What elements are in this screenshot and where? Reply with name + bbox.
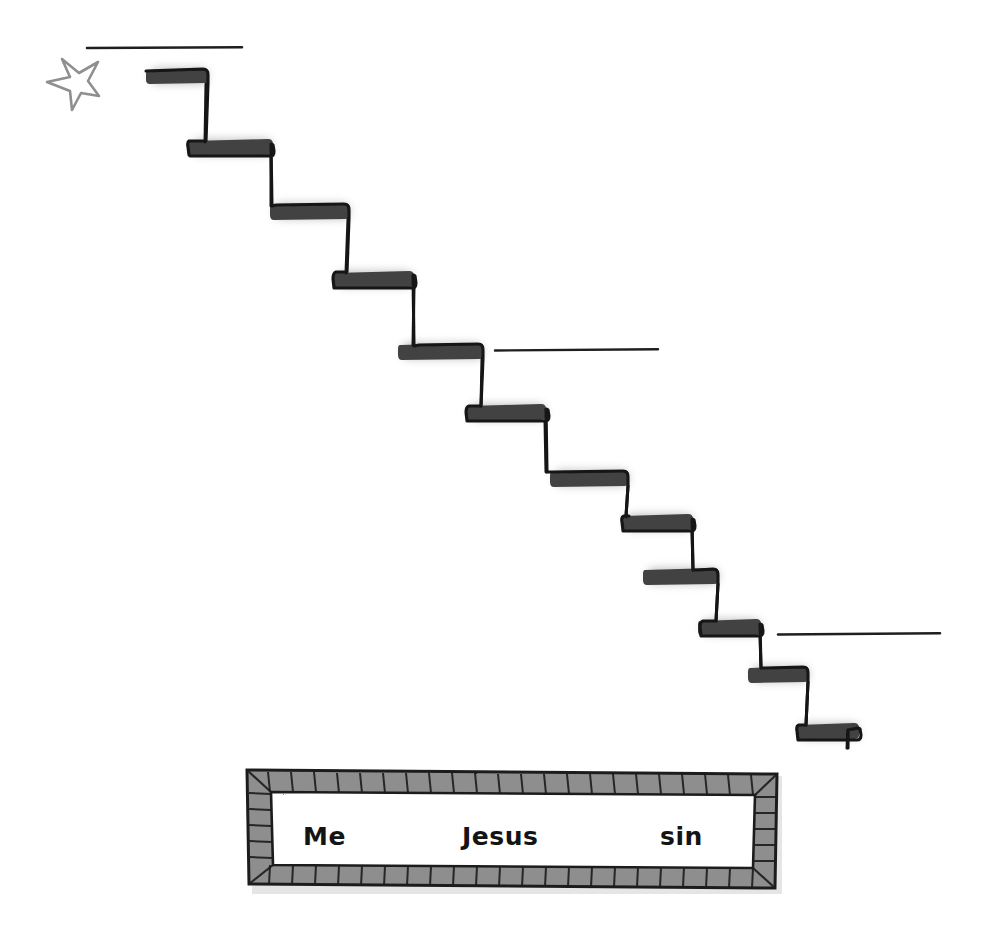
rule-top (87, 47, 242, 48)
page-root: presence (0, 0, 990, 945)
rule-middle (495, 349, 658, 350)
box-word-sin: sin (660, 822, 703, 851)
box-word-me: Me (303, 822, 346, 851)
box-word-list: Me Jesus sin (247, 770, 777, 888)
box-word-jesus: Jesus (462, 822, 538, 851)
rule-bottom (778, 633, 940, 634)
